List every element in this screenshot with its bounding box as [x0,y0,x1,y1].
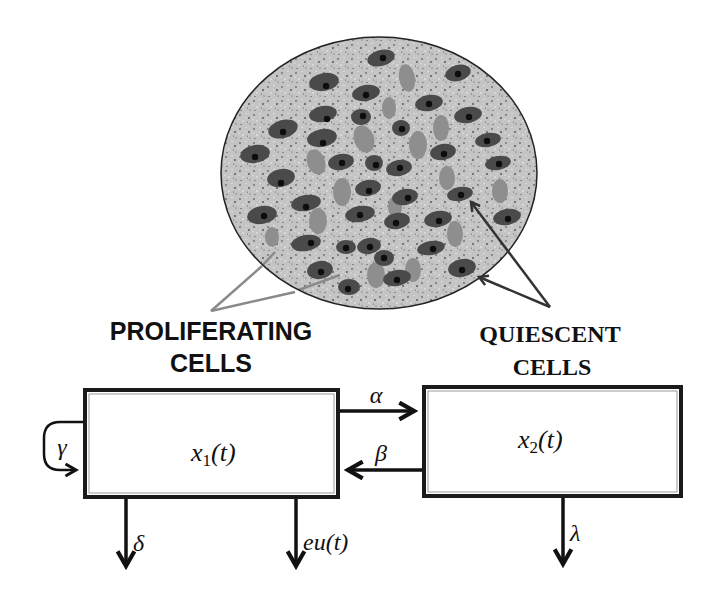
proliferating-label-line2: CELLS [170,349,252,377]
x1-var: x [190,438,203,467]
x2-sub: 2 [530,438,539,457]
quiescent-label-line1: QUIESCENT [479,321,620,347]
proliferating-label-line1: PROLIFERATING [110,317,312,345]
alpha-symbol: α [370,382,383,408]
tissue-illustration [221,37,537,309]
svg-text:x2(t): x2(t) [517,425,563,457]
quiescent-label-line2: CELLS [513,354,592,380]
delta-transition: δ [126,499,145,566]
beta-transition: β [348,440,422,470]
lambda-transition: λ [563,498,580,564]
x2-var: x [517,425,530,454]
compartment-x2: x2(t) [424,387,681,496]
delta-symbol: δ [133,530,145,556]
gamma-symbol: γ [57,434,67,460]
x1-arg: (t) [211,438,236,467]
svg-text:x1(t): x1(t) [190,438,236,470]
compartment-diagram: PROLIFERATING CELLS QUIESCENT CELLS x1(t… [0,0,720,606]
control-symbol: eu [303,529,326,555]
x2-arg: (t) [538,425,563,454]
svg-text:eu(t): eu(t) [303,529,348,555]
gamma-transition: γ [44,422,84,470]
control-arg: (t) [326,529,349,555]
beta-symbol: β [374,440,387,466]
x1-sub: 1 [203,451,212,470]
compartment-x1: x1(t) [85,390,338,497]
alpha-transition: α [340,382,414,411]
lambda-symbol: λ [569,520,580,546]
control-transition: eu(t) [296,499,348,566]
